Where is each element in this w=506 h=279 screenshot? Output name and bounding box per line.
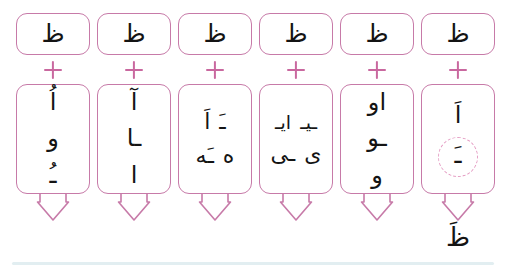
vowel-forms-box-3[interactable]: اَ ـَ ـَه ه — [178, 84, 252, 194]
form-item: ـی — [270, 141, 295, 168]
exercise-column-6: ظ اَ ـَ ظَ — [419, 0, 497, 254]
base-letter-glyph: ظ — [122, 21, 145, 46]
down-arrow-icon-2 — [117, 193, 151, 223]
form-item: ی — [304, 141, 321, 168]
form-item: ا — [131, 161, 138, 190]
form-row: ـی ی — [263, 141, 329, 168]
form-stack-1: اُ و ـُ — [20, 88, 86, 190]
vowel-forms-box-5[interactable]: او ـو و — [340, 84, 414, 194]
base-letter-glyph: ظ — [446, 21, 469, 46]
form-stack-5: او ـو و — [344, 88, 410, 190]
down-arrow-icon-3 — [198, 193, 232, 223]
form-item: و — [47, 124, 59, 153]
form-stack-2: آ ـا ا — [101, 88, 167, 190]
form-item: ـیـ — [300, 111, 317, 134]
page-rule-line — [12, 262, 494, 265]
form-item: ـو — [367, 124, 386, 153]
worksheet-canvas: ظ اُ و ـُ ظ — [0, 0, 506, 279]
vowel-forms-box-4[interactable]: ایـ ـیـ ـی ی — [259, 84, 333, 194]
base-letter-glyph: ظ — [365, 21, 388, 46]
form-item: ـَ — [219, 109, 225, 136]
result-glyph-6: ظَ — [446, 224, 470, 254]
base-letter-glyph: ظ — [284, 21, 307, 46]
vowel-forms-box-1[interactable]: اُ و ـُ — [16, 84, 90, 194]
form-item: ـُ — [49, 161, 56, 190]
highlighted-vowel-marker[interactable]: ـَ — [438, 137, 478, 177]
base-letter-box-5[interactable]: ظ — [340, 13, 414, 55]
exercise-column-2: ظ آ ـا ا — [95, 0, 173, 254]
form-item: اُ — [50, 88, 57, 117]
column-group: ظ اُ و ـُ ظ — [0, 0, 506, 279]
base-letter-box-1[interactable]: ظ — [16, 13, 90, 55]
down-arrow-icon-5 — [360, 193, 394, 223]
form-row: ایـ ـیـ — [263, 111, 329, 134]
form-item: آ — [131, 88, 138, 117]
base-letter-glyph: ظ — [41, 21, 64, 46]
base-letter-box-6[interactable]: ظ — [421, 13, 495, 55]
base-letter-box-4[interactable]: ظ — [259, 13, 333, 55]
down-arrow-icon-1 — [36, 193, 70, 223]
form-item: او — [368, 88, 386, 117]
base-letter-box-3[interactable]: ظ — [178, 13, 252, 55]
exercise-column-1: ظ اُ و ـُ — [14, 0, 92, 254]
plus-icon-3 — [204, 59, 226, 81]
form-stack-4: ایـ ـیـ ـی ی — [263, 111, 329, 168]
vowel-forms-box-2[interactable]: آ ـا ا — [97, 84, 171, 194]
down-arrow-icon-6 — [441, 193, 475, 223]
exercise-column-5: ظ او ـو و — [338, 0, 416, 254]
form-item: و — [371, 161, 383, 190]
vowel-forms-box-6[interactable]: اَ ـَ — [421, 84, 495, 194]
form-stack-6: اَ ـَ — [425, 101, 491, 177]
plus-icon-1 — [42, 59, 64, 81]
base-letter-glyph: ظ — [203, 21, 226, 46]
down-arrow-icon-4 — [279, 193, 313, 223]
form-item: ـَه — [196, 143, 214, 170]
form-row: اَ ـَ — [182, 109, 248, 136]
plus-icon-4 — [285, 59, 307, 81]
form-item: ایـ — [275, 111, 291, 134]
form-item: اَ — [455, 101, 462, 130]
plus-icon-5 — [366, 59, 388, 81]
exercise-column-4: ظ ایـ ـیـ ـی ی — [257, 0, 335, 254]
form-item: ه — [223, 143, 235, 170]
plus-icon-6 — [447, 59, 469, 81]
exercise-column-3: ظ اَ ـَ ـَه ه — [176, 0, 254, 254]
form-row: ـَه ه — [182, 143, 248, 170]
form-item-highlighted: ـَ — [454, 141, 461, 170]
base-letter-box-2[interactable]: ظ — [97, 13, 171, 55]
form-stack-3: اَ ـَ ـَه ه — [182, 109, 248, 170]
form-item: ـا — [127, 124, 141, 153]
form-item: اَ — [204, 109, 210, 136]
plus-icon-2 — [123, 59, 145, 81]
